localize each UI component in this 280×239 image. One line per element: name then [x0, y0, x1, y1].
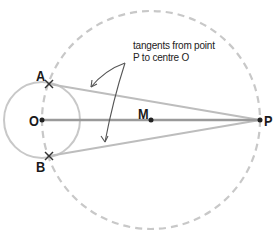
point-m-dot [149, 118, 154, 123]
annotation-line-2: P to centre O [133, 52, 215, 64]
annotation-line-1: tangents from point [133, 40, 215, 52]
label-a: A [36, 68, 45, 83]
annotation-text: tangents from point P to centre O [133, 40, 215, 64]
tangent-line-pa [49, 84, 260, 120]
point-o-dot [40, 118, 45, 123]
arrow-to-lower-tangent-icon [105, 63, 125, 142]
arrow-to-upper-tangent-icon [91, 63, 125, 87]
tangent-diagram: A B O M P tangents from point P to centr… [0, 0, 280, 239]
label-o: O [29, 113, 39, 128]
tangent-line-pb [49, 120, 260, 156]
annotation-arrows [91, 63, 125, 142]
label-p: P [264, 113, 273, 128]
point-p-dot [258, 118, 263, 123]
label-b: B [36, 159, 45, 174]
label-m: M [138, 106, 149, 121]
